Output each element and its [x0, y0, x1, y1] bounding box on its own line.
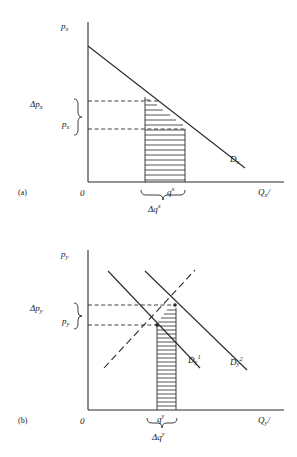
panel-a-plot: [0, 0, 297, 228]
y-axis-label-b: py: [61, 250, 68, 260]
hatch-fill-a: [145, 100, 185, 180]
origin-label-a: 0: [80, 188, 85, 198]
delta-price-label-a: Δpx: [30, 100, 43, 110]
panel-a: px Δpx px Dx 0 qx Δqx Qx/ (a): [0, 0, 297, 228]
demand-curve-dy1: [108, 271, 200, 368]
panel-b: py Δpy py Dy1 Dy2 0 qy Δqy Qy/ (b): [0, 228, 297, 456]
demand-label-dx: Dx: [230, 155, 239, 165]
delta-quantity-label-b: Δqy: [152, 431, 165, 442]
delta-quantity-label-a: Δqx: [148, 203, 161, 214]
price-label-b: py: [62, 317, 69, 327]
brace-delta-quantity-a: [141, 190, 185, 200]
x-axis-label-a: Qx/: [258, 188, 270, 198]
brace-delta-price-a: [74, 99, 82, 135]
demand-label-dy2: Dy2: [230, 356, 243, 368]
hatch-fill-b: [157, 310, 176, 406]
price-label-a: px: [62, 120, 69, 130]
delta-price-label-b: Δpy: [30, 304, 43, 314]
quantity-label-b: qy: [157, 413, 164, 424]
brace-delta-price-b: [74, 303, 82, 329]
panel-b-plot: [0, 228, 297, 457]
equilibrium-point-2: [173, 303, 177, 307]
y-axis-label-a: px: [61, 22, 68, 32]
demand-label-dy1: Dy1: [188, 354, 201, 366]
quantity-label-a: qx: [167, 186, 174, 197]
origin-label-b: 0: [80, 416, 85, 426]
supply-curve-b: [104, 270, 195, 368]
panel-tag-a: (a): [18, 188, 27, 197]
panel-tag-b: (b): [18, 416, 27, 425]
x-axis-label-b: Qy/: [258, 416, 270, 426]
